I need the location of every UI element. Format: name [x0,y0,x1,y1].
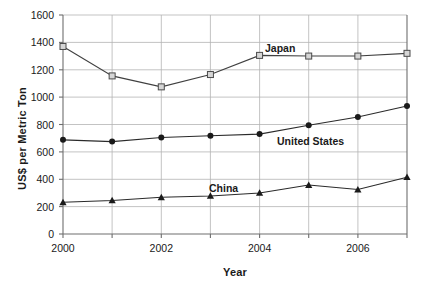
y-tick-label-1600: 1600 [20,10,54,21]
data-point-japan-2000 [60,43,66,49]
y-axis-title: US$ per Metric Ton [16,87,28,190]
data-point-china-2007 [403,174,410,180]
x-tick-label-2000: 2000 [43,243,83,254]
line-chart: 1600 1400 1200 1000 800 600 400 200 0 20… [0,0,422,287]
data-point-china-2005 [305,181,312,187]
y-tick-label-0: 0 [20,229,54,240]
data-point-japan-2002 [158,84,164,90]
x-tick-label-2006: 2006 [338,243,378,254]
data-point-japan-2004 [257,52,263,58]
data-point-united-states-2001 [109,139,115,145]
horizontal-gridlines [63,15,407,207]
data-point-united-states-2007 [404,103,410,109]
series-label-china: China [209,183,238,194]
data-point-united-states-2004 [257,131,263,137]
series-label-united-states: United States [277,136,344,147]
data-point-japan-2006 [355,53,361,59]
y-tick-label-1400: 1400 [20,37,54,48]
data-point-japan-2003 [207,72,213,78]
x-axis-title: Year [175,266,295,278]
data-point-united-states-2002 [158,135,164,141]
data-point-united-states-2005 [306,122,312,128]
y-tick-label-1200: 1200 [20,65,54,76]
x-tick-label-2004: 2004 [240,243,280,254]
data-point-united-states-2003 [207,133,213,139]
data-point-united-states-2006 [355,114,361,120]
data-point-japan-2001 [109,73,115,79]
data-point-united-states-2000 [60,137,66,143]
x-tick-marks [63,234,407,238]
y-tick-label-200: 200 [20,202,54,213]
x-tick-label-2002: 2002 [141,243,181,254]
series-label-japan: Japan [265,43,295,54]
data-point-japan-2007 [404,50,410,56]
data-point-japan-2005 [306,53,312,59]
